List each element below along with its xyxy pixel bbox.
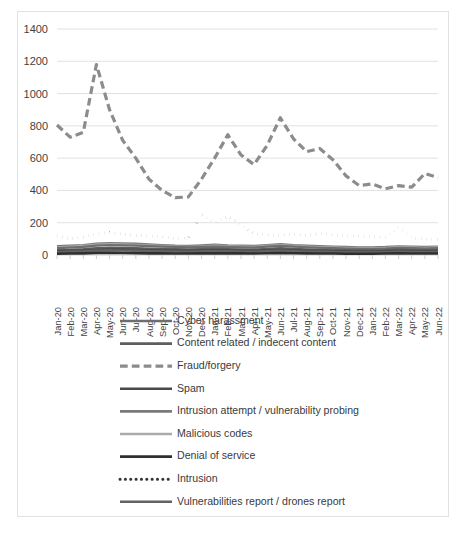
- x-axis-tick-label: Oct-21: [328, 307, 338, 335]
- x-axis-tick-label: Apr-20: [92, 307, 102, 335]
- x-axis-tick-label: Feb-20: [66, 307, 76, 336]
- x-axis-tick-label: Aug-21: [302, 307, 312, 337]
- x-axis-tick-label: Jul-20: [131, 307, 141, 332]
- series-line: [57, 65, 438, 198]
- legend-label: Content related / indecent content: [177, 336, 336, 348]
- y-axis-tick-labels: 0200400600800100012001400: [24, 23, 48, 261]
- legend-label: Intrusion: [177, 472, 218, 484]
- x-axis-tick-label: Jan-22: [368, 307, 378, 335]
- x-axis-tick-label: Jun-22: [434, 307, 444, 335]
- y-axis-tick-label: 1000: [24, 88, 48, 100]
- x-axis-tick-label: Jan-20: [53, 307, 63, 335]
- line-chart: 0200400600800100012001400 Jan-20Feb-20Ma…: [0, 0, 466, 535]
- data-series-group: [57, 65, 438, 254]
- legend-label: Cyber harassment: [177, 314, 264, 326]
- x-axis-tickmarks: [57, 255, 438, 259]
- x-axis-tick-label: Mar-20: [79, 307, 89, 336]
- series-line: [57, 215, 438, 240]
- x-axis-tick-label: May-20: [105, 307, 115, 338]
- legend-label: Denial of service: [177, 449, 255, 461]
- x-axis-tick-label: Sep-21: [315, 307, 325, 337]
- legend-label: Spam: [177, 382, 205, 394]
- y-axis-tick-label: 600: [30, 152, 48, 164]
- x-axis-tick-label: Jul-21: [289, 307, 299, 332]
- legend-label: Malicious codes: [177, 427, 252, 439]
- y-axis-tick-label: 800: [30, 120, 48, 132]
- gridlines-group: [57, 29, 438, 255]
- x-axis-tick-label: Nov-21: [342, 307, 352, 337]
- x-axis-tick-label: Dec-21: [355, 307, 365, 337]
- chart-figure: 0200400600800100012001400 Jan-20Feb-20Ma…: [0, 0, 466, 535]
- x-axis-tick-label: May-21: [263, 307, 273, 338]
- y-axis-tick-label: 0: [42, 249, 48, 261]
- x-axis-tick-label: May-22: [420, 307, 430, 338]
- chart-legend: Cyber harassmentContent related / indece…: [120, 314, 359, 507]
- y-axis-tick-label: 200: [30, 217, 48, 229]
- y-axis-tick-label: 1400: [24, 23, 48, 35]
- x-axis-tick-label: Apr-22: [407, 307, 417, 335]
- legend-label: Intrusion attempt / vulnerability probin…: [177, 404, 359, 416]
- y-axis-tick-label: 400: [30, 184, 48, 196]
- x-axis-tick-label: Mar-22: [394, 307, 404, 336]
- series-line: [57, 253, 438, 254]
- legend-label: Vulnerabilities report / drones report: [177, 495, 345, 507]
- y-axis-tick-label: 1200: [24, 55, 48, 67]
- x-axis-tick-label: Jun-21: [276, 307, 286, 335]
- x-axis-tick-label: Feb-22: [381, 307, 391, 336]
- legend-label: Fraud/forgery: [177, 359, 241, 371]
